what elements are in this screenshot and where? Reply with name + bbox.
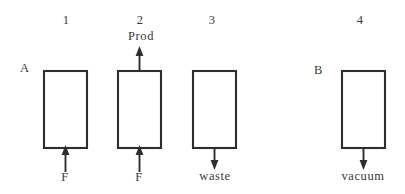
vessel-rect-3: [193, 71, 236, 148]
figure-canvas: [0, 0, 405, 194]
vacuum-label-4: vacuum: [341, 170, 384, 183]
feed-label-2: F: [135, 171, 143, 184]
product-label-2: Prod: [128, 30, 154, 43]
vessel-rect-2: [118, 71, 161, 148]
row-label-b: B: [314, 64, 322, 77]
vessel-rect-4: [342, 71, 385, 148]
feed-label-1: F: [61, 171, 69, 184]
column-label-4: 4: [357, 14, 364, 27]
waste-label-3: waste: [199, 170, 230, 183]
column-label-1: 1: [63, 14, 70, 27]
adsorption-cycle-figure: 1 2 3 4 A B F Prod F waste vacuum: [0, 0, 405, 194]
column-label-3: 3: [209, 14, 216, 27]
row-label-a: A: [20, 62, 29, 75]
vessel-rect-1: [44, 71, 87, 148]
product-arrow-head-2: [136, 46, 144, 56]
column-label-2: 2: [137, 14, 144, 27]
